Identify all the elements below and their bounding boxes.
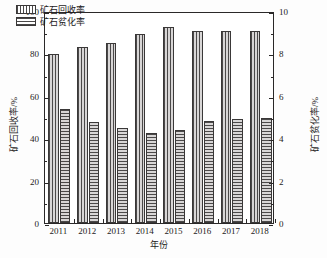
y-minor-tick-right-1: [271, 204, 273, 205]
y-tick-label-left-80: 80: [0, 49, 39, 59]
y-minor-tick-left-70: [45, 77, 47, 78]
bar-dilution-2015: [175, 130, 186, 223]
y-tick-right-10: [269, 13, 273, 14]
y-tick-label-right-0: 0: [279, 219, 309, 229]
y-minor-tick-left-10: [45, 204, 47, 205]
y-tick-label-right-2: 2: [279, 177, 309, 187]
y-minor-tick-left-30: [45, 161, 47, 162]
y-tick-right-6: [269, 98, 273, 99]
bar-recovery-2014: [135, 34, 146, 223]
x-tick-2018: [275, 219, 276, 223]
y-minor-tick-right-9: [271, 34, 273, 35]
y-tick-left-80: [45, 55, 49, 56]
legend-item-recovery: 矿石回收率: [16, 4, 85, 15]
y-tick-label-left-40: 40: [0, 134, 39, 144]
bar-recovery-2015: [163, 27, 174, 223]
bar-recovery-2012: [77, 47, 88, 223]
legend-item-dilution: 矿石贫化率: [16, 16, 85, 27]
bar-dilution-2017: [232, 119, 243, 223]
bar-recovery-2016: [192, 31, 203, 223]
bar-dilution-2011: [60, 109, 71, 223]
bar-dilution-2012: [89, 122, 100, 223]
chart-legend: 矿石回收率 矿石贫化率: [16, 4, 85, 27]
chart-figure: 矿石回收率/% 矿石贫化率/% 年份 201120122013201420152…: [0, 0, 327, 258]
bar-recovery-2017: [221, 31, 232, 223]
x-tick-2011: [74, 219, 75, 223]
y-axis-label-right: 矿石贫化率/%: [308, 77, 321, 173]
x-tick-2017: [246, 219, 247, 223]
legend-label-dilution: 矿石贫化率: [40, 15, 85, 28]
legend-swatch-horizontal-hatch-icon: [16, 17, 36, 26]
x-tick-2013: [131, 219, 132, 223]
x-tick-label-2018: 2018: [240, 226, 280, 236]
x-axis-label: 年份: [44, 238, 274, 251]
y-tick-right-4: [269, 140, 273, 141]
bar-dilution-2013: [117, 128, 128, 223]
y-tick-right-8: [269, 55, 273, 56]
bar-recovery-2011: [48, 54, 59, 223]
y-minor-tick-left-90: [45, 34, 47, 35]
y-tick-label-left-60: 60: [0, 92, 39, 102]
y-minor-tick-right-3: [271, 161, 273, 162]
bar-dilution-2016: [204, 121, 215, 223]
x-tick-2016: [218, 219, 219, 223]
x-tick-2014: [160, 219, 161, 223]
x-tick-2012: [103, 219, 104, 223]
y-tick-right-2: [269, 183, 273, 184]
y-tick-left-20: [45, 183, 49, 184]
y-tick-label-right-4: 4: [279, 134, 309, 144]
y-tick-label-left-0: 0: [0, 219, 39, 229]
y-tick-label-right-6: 6: [279, 92, 309, 102]
y-minor-tick-left-50: [45, 119, 47, 120]
bar-recovery-2018: [250, 31, 261, 223]
y-tick-label-right-10: 10: [279, 7, 309, 17]
y-tick-label-right-8: 8: [279, 49, 309, 59]
plot-area: [44, 12, 274, 224]
x-tick-2015: [189, 219, 190, 223]
bar-dilution-2018: [261, 118, 272, 223]
y-minor-tick-right-5: [271, 119, 273, 120]
y-tick-left-40: [45, 140, 49, 141]
y-tick-label-left-20: 20: [0, 177, 39, 187]
y-minor-tick-right-7: [271, 77, 273, 78]
legend-swatch-vertical-hatch-icon: [16, 5, 36, 14]
bar-dilution-2014: [146, 133, 157, 223]
y-tick-left-60: [45, 98, 49, 99]
bar-recovery-2013: [106, 43, 117, 223]
